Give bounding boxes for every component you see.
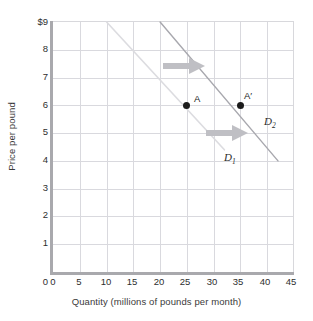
d2-subscript: 2 (272, 121, 276, 130)
d1-subscript: 1 (232, 157, 236, 166)
x-axis-title: Quantity (millions of pounds per month) (0, 296, 313, 307)
point-a-prime (237, 102, 244, 109)
y-tick-label-3: 3 (8, 183, 48, 193)
d1-letter: D (224, 151, 232, 163)
point-a-label: A (194, 93, 200, 104)
x-axis-spine (50, 272, 294, 275)
x-tick-label-25: 25 (170, 277, 200, 287)
x-tick-label-15: 15 (117, 277, 147, 287)
y-tick-label-9: $9 (8, 17, 48, 27)
y-tick-label-4: 4 (8, 155, 48, 165)
demand-curve-d2-label: D2 (264, 115, 276, 130)
upper-shift-arrow (163, 58, 205, 74)
point-a-prime-label: A′ (244, 90, 252, 101)
y-tick-label-5: 5 (8, 127, 48, 137)
y-tick-label-7: 7 (8, 72, 48, 82)
d2-letter: D (264, 115, 272, 127)
x-tick-label-35: 35 (223, 277, 253, 287)
x-tick-label-45: 45 (276, 277, 306, 287)
y-tick-label-8: 8 (8, 44, 48, 54)
demand-shift-chart: Price per pound $9 8 7 6 5 4 3 2 1 0 0 5… (0, 0, 313, 321)
plot-area: A A′ D1 D2 (53, 22, 294, 272)
y-tick-label-6: 6 (8, 100, 48, 110)
y-tick-label-1: 1 (8, 238, 48, 248)
x-tick-label-5: 5 (64, 277, 94, 287)
lower-shift-arrow (206, 125, 248, 141)
y-tick-label-2: 2 (8, 210, 48, 220)
demand-curve-d1-label: D1 (224, 151, 236, 166)
